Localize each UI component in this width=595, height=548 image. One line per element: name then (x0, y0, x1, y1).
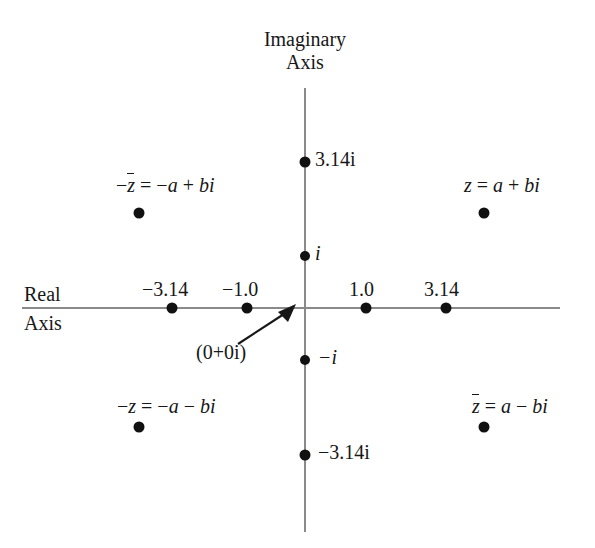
q2-bi: bi (199, 174, 215, 196)
tick-label-real-neg-1: −1.0 (222, 278, 258, 300)
q2-rhs-minus: − (156, 174, 167, 196)
q2-z-conjugate: z (127, 174, 135, 196)
point-real-neg-1 (242, 303, 253, 314)
point-real-pos-1 (361, 303, 372, 314)
tick-label-imag-i: i (315, 242, 321, 264)
q3-operator: − (184, 395, 195, 417)
q3-rhs-minus: − (157, 395, 168, 417)
real-axis-title-line1: Real (24, 283, 61, 305)
q2-leading-minus: − (116, 174, 127, 196)
q1-a: a (493, 174, 503, 196)
q2-a: a (168, 174, 178, 196)
q1-bi: bi (524, 174, 540, 196)
tick-label-imag-3-14i: 3.14i (315, 148, 356, 170)
q4-equals: = (485, 395, 496, 417)
imaginary-axis-title-line1: Imaginary (222, 28, 388, 51)
point-imag-3-14i (300, 157, 311, 168)
point-imag-neg-i (300, 355, 310, 365)
tick-label-imag-neg-3-14i: −3.14i (318, 441, 370, 463)
point-imag-i (300, 251, 310, 261)
q1-z: z (464, 174, 472, 196)
tick-label-imag-neg-i: −i (318, 346, 337, 368)
q4-z-conjugate: z (472, 395, 480, 417)
q1-operator: + (508, 174, 519, 196)
real-axis-title-line2: Axis (24, 312, 62, 334)
q3-z: z (128, 395, 136, 417)
q1-equals: = (477, 174, 488, 196)
point-imag-neg-3-14i (300, 450, 311, 461)
point-real-pos-3-14 (441, 303, 452, 314)
point-neg-z-conjugate (134, 208, 145, 219)
point-neg-z (134, 422, 145, 433)
point-z-conjugate (479, 422, 490, 433)
tick-label-real-pos-3-14: 3.14 (424, 278, 459, 300)
point-z (479, 208, 490, 219)
q4-bi: bi (532, 395, 548, 417)
label-neg-z: −z = −a − bi (117, 395, 215, 417)
label-z: z = a + bi (464, 174, 540, 196)
real-axis-line (22, 307, 560, 309)
point-real-neg-3-14 (167, 303, 178, 314)
q4-operator: − (516, 395, 527, 417)
q4-a: a (501, 395, 511, 417)
q3-bi: bi (200, 395, 216, 417)
q3-a: a (169, 395, 179, 417)
tick-label-real-neg-3-14: −3.14 (142, 278, 188, 300)
q2-operator: + (183, 174, 194, 196)
q2-equals: = (140, 174, 151, 196)
label-neg-z-conjugate: −z = −a + bi (116, 174, 214, 196)
tick-label-real-pos-1: 1.0 (349, 278, 374, 300)
imaginary-axis-line (304, 88, 306, 532)
origin-label: (0+0i) (196, 341, 246, 363)
complex-plane-figure: Imaginary Axis Real Axis −3.14 −1.0 1.0 … (0, 0, 595, 548)
q3-leading-minus: − (117, 395, 128, 417)
q3-equals: = (141, 395, 152, 417)
label-z-conjugate: z = a − bi (472, 395, 548, 417)
imaginary-axis-title: Imaginary Axis (222, 28, 388, 74)
imaginary-axis-title-line2: Axis (222, 51, 388, 74)
